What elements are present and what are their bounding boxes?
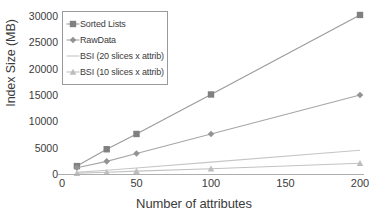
y-tick-label: 15000	[14, 90, 58, 101]
series-line	[77, 95, 360, 168]
x-tick-label: 150	[276, 177, 294, 189]
series-2	[77, 150, 360, 172]
index-size-line-chart: Index Size (MB) 050001000015000200002500…	[0, 0, 388, 223]
x-tick-label: 0	[59, 177, 65, 189]
series-1	[74, 92, 364, 171]
y-tick-label: 30000	[14, 11, 58, 22]
data-point-marker	[104, 146, 110, 152]
x-tick-label: 100	[202, 177, 220, 189]
legend-none-marker-icon	[66, 49, 80, 63]
x-axis-tick-labels: 050100150200	[0, 177, 388, 193]
data-point-marker	[133, 131, 139, 137]
series-line	[77, 150, 360, 172]
legend-item-label: Sorted Lists	[80, 20, 126, 29]
legend-triangle-marker-icon	[66, 65, 80, 79]
chart-legend: Sorted ListsRawDataBSI (20 slices x attr…	[62, 11, 168, 85]
x-axis-line	[58, 174, 364, 175]
series-line	[77, 163, 360, 173]
y-tick-label: 20000	[14, 63, 58, 74]
legend-item-label: BSI (10 slices x attrib)	[80, 68, 164, 77]
x-axis-title: Number of attributes	[0, 196, 388, 211]
y-tick-label: 10000	[14, 116, 58, 127]
legend-item: Sorted Lists	[66, 16, 163, 32]
legend-item-label: BSI (20 slices x attrib)	[80, 52, 164, 61]
data-point-marker	[357, 12, 363, 18]
data-point-marker	[357, 92, 364, 99]
data-point-marker	[103, 158, 110, 165]
y-tick-label: 25000	[14, 37, 58, 48]
y-tick-label: 5000	[14, 142, 58, 153]
legend-item: RawData	[66, 32, 163, 48]
legend-square-marker-icon	[66, 17, 80, 31]
data-point-marker	[133, 150, 140, 157]
x-tick-label: 200	[351, 177, 369, 189]
data-point-marker	[208, 91, 214, 97]
legend-item: BSI (20 slices x attrib)	[66, 48, 163, 64]
legend-item: BSI (10 slices x attrib)	[66, 64, 163, 80]
legend-diamond-marker-icon	[66, 33, 80, 47]
x-tick-label: 50	[130, 177, 142, 189]
legend-item-label: RawData	[80, 36, 116, 45]
data-point-marker	[208, 131, 215, 138]
